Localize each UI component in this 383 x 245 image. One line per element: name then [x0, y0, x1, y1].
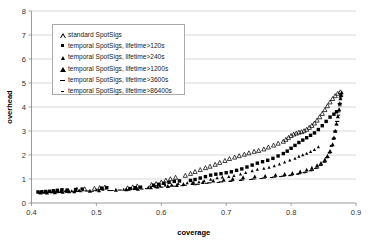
data-point [133, 189, 137, 190]
data-point [218, 160, 222, 164]
data-point [189, 179, 192, 182]
data-point [262, 147, 266, 151]
data-point [91, 191, 94, 192]
data-point [333, 94, 337, 98]
data-point [293, 144, 296, 147]
data-point [335, 121, 339, 122]
data-point [180, 185, 183, 186]
data-point [337, 115, 340, 116]
series-square-filled [36, 110, 338, 194]
x-axis-tick-label: 0.6 [156, 208, 166, 217]
data-point [328, 115, 331, 118]
data-point [173, 180, 176, 183]
data-point [334, 131, 337, 132]
x-axis-tick-label: 0.5 [91, 208, 101, 217]
data-point [124, 187, 128, 191]
legend-item-label: temporal SpotSigs, lifetime>120s [68, 40, 165, 51]
data-point [276, 141, 280, 145]
data-point [296, 174, 299, 175]
data-point [293, 157, 296, 160]
data-point [159, 187, 163, 188]
data-point [249, 179, 252, 180]
data-point [214, 173, 217, 176]
data-point [79, 191, 82, 192]
legend-marker-triangle-open-icon [57, 29, 68, 40]
chart-legend: standard SpotSigstemporal SpotSigs, life… [52, 24, 185, 95]
data-point [256, 168, 259, 171]
data-point [230, 170, 233, 173]
data-point [283, 172, 287, 176]
data-point [114, 188, 118, 192]
data-point [80, 187, 83, 190]
data-point [213, 162, 217, 166]
data-point [223, 158, 227, 162]
data-point [319, 165, 322, 166]
data-point [50, 192, 54, 193]
data-point [266, 145, 270, 149]
data-point [171, 186, 175, 187]
data-point [239, 173, 242, 176]
legend-marker-dash-icon [57, 74, 68, 85]
data-point [321, 124, 324, 127]
data-point [305, 168, 309, 172]
data-point [278, 162, 281, 165]
y-axis-tick-label: 8 [22, 7, 26, 16]
data-point [154, 187, 157, 188]
data-point [75, 191, 79, 192]
data-point [85, 190, 89, 191]
data-point [219, 172, 222, 175]
data-point [310, 123, 314, 127]
data-point [227, 175, 230, 178]
data-point [279, 176, 282, 177]
legend-item: standard SpotSigs [57, 29, 184, 40]
data-point [225, 171, 228, 174]
data-point [198, 168, 202, 172]
data-point [245, 165, 248, 168]
data-point [216, 176, 219, 179]
data-point [271, 157, 274, 160]
data-point [320, 111, 324, 115]
data-point [302, 172, 305, 173]
data-point [145, 188, 149, 189]
legend-marker-triangle-small-icon [57, 51, 68, 62]
data-point [267, 166, 270, 169]
data-point [227, 157, 231, 161]
data-point [337, 107, 341, 111]
data-point [266, 159, 269, 162]
data-point [139, 185, 142, 188]
data-point [118, 189, 122, 190]
data-point [262, 167, 265, 170]
data-point [250, 163, 253, 166]
data-point [310, 166, 314, 170]
data-point [167, 186, 170, 187]
data-point [315, 163, 319, 167]
data-point [105, 186, 108, 189]
data-point [261, 160, 264, 163]
data-point [56, 192, 59, 193]
data-point [197, 180, 200, 183]
x-axis-tick-label: 0.9 [351, 208, 361, 217]
data-point [247, 151, 251, 155]
y-axis-tick-label: 7 [22, 31, 26, 40]
y-axis-tick-label: 1 [22, 175, 26, 184]
data-point [289, 147, 292, 150]
data-point [183, 173, 187, 177]
data-point [193, 184, 196, 185]
data-point [283, 161, 286, 164]
data-point [335, 124, 338, 125]
x-axis-tick-label: 0.4 [26, 208, 36, 217]
data-point [276, 154, 279, 157]
data-point [217, 182, 220, 183]
data-point [274, 173, 278, 177]
legend-marker-square-filled-icon [57, 40, 68, 51]
data-point [332, 138, 336, 139]
data-point [330, 145, 334, 146]
data-point [313, 148, 316, 151]
data-point [286, 149, 289, 152]
legend-item-label: temporal SpotSigs, lifetime>1200s [68, 63, 168, 74]
legend-item: temporal SpotSigs, lifetime>1200s [57, 63, 184, 74]
data-point [193, 178, 196, 181]
data-point [167, 181, 170, 184]
data-point [252, 149, 256, 153]
data-point [317, 128, 320, 131]
